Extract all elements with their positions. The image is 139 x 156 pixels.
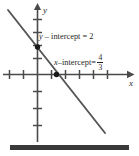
- y-axis-label: y: [42, 5, 47, 15]
- fraction-numerator: 4: [98, 54, 104, 62]
- x-intercept-annotation: x – intercept = 43: [54, 54, 103, 72]
- y-intercept-equals: =: [80, 32, 89, 41]
- fraction-denominator: 3: [98, 64, 104, 72]
- y-axis-arrow-icon: [34, 3, 41, 10]
- x-intercept-term: intercept: [62, 59, 91, 67]
- coordinate-graph: y x: [0, 0, 139, 156]
- y-intercept-term: intercept: [51, 32, 80, 41]
- y-intercept-point: [35, 44, 40, 49]
- y-intercept-value: 2: [89, 32, 93, 41]
- x-intercept-point: [54, 72, 59, 77]
- x-intercept-equals: =: [91, 59, 96, 67]
- y-intercept-annotation: y – intercept = 2: [39, 33, 94, 41]
- x-axis-label: x: [128, 78, 133, 88]
- figure-container: y x y – intercept = 2 x – intercept = 43: [0, 0, 139, 156]
- bottom-rule: [10, 145, 129, 150]
- y-intercept-dash: –: [43, 32, 51, 41]
- x-intercept-fraction: 43: [97, 54, 103, 72]
